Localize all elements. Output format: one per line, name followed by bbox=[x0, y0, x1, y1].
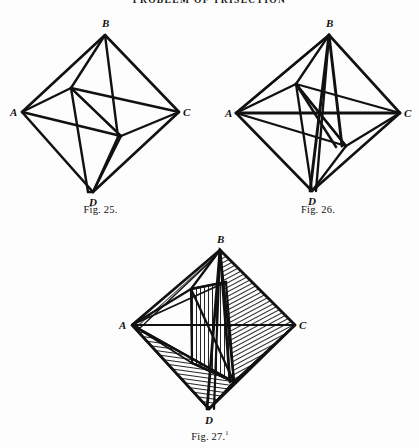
figure-25: A B C D bbox=[8, 14, 193, 210]
figure-25-labels: A B C D bbox=[8, 14, 193, 210]
figure-27-caption-text: Fig. 27. bbox=[191, 431, 225, 442]
figure-26-caption: Fig. 26. bbox=[224, 204, 412, 215]
vertex-label-a: A bbox=[118, 319, 126, 331]
vertex-label-c: C bbox=[183, 106, 191, 118]
vertex-label-c: C bbox=[299, 319, 307, 331]
figure-26-labels: A B C D bbox=[224, 14, 412, 210]
book-page: PROBLEM OF TRISECTION bbox=[0, 0, 419, 448]
figure-26-caption-text: Fig. 26. bbox=[301, 204, 335, 215]
vertex-label-a: A bbox=[224, 107, 232, 119]
figure-27-caption: Fig. 27.1 bbox=[92, 429, 328, 442]
running-header: PROBLEM OF TRISECTION bbox=[0, 0, 419, 3]
figure-27-footnote-marker: 1 bbox=[225, 429, 228, 436]
figure-26: A B C D bbox=[224, 14, 412, 210]
figure-27: A B C D bbox=[92, 232, 328, 428]
vertex-label-d: D bbox=[204, 414, 213, 426]
vertex-label-b: B bbox=[101, 17, 109, 29]
vertex-label-b: B bbox=[325, 17, 333, 29]
vertex-label-c: C bbox=[404, 107, 412, 119]
vertex-label-b: B bbox=[216, 233, 224, 245]
figure-25-caption: Fig. 25. bbox=[8, 204, 193, 215]
figure-27-labels: A B C D bbox=[92, 232, 328, 428]
vertex-label-a: A bbox=[9, 106, 17, 118]
figure-25-caption-text: Fig. 25. bbox=[84, 204, 118, 215]
